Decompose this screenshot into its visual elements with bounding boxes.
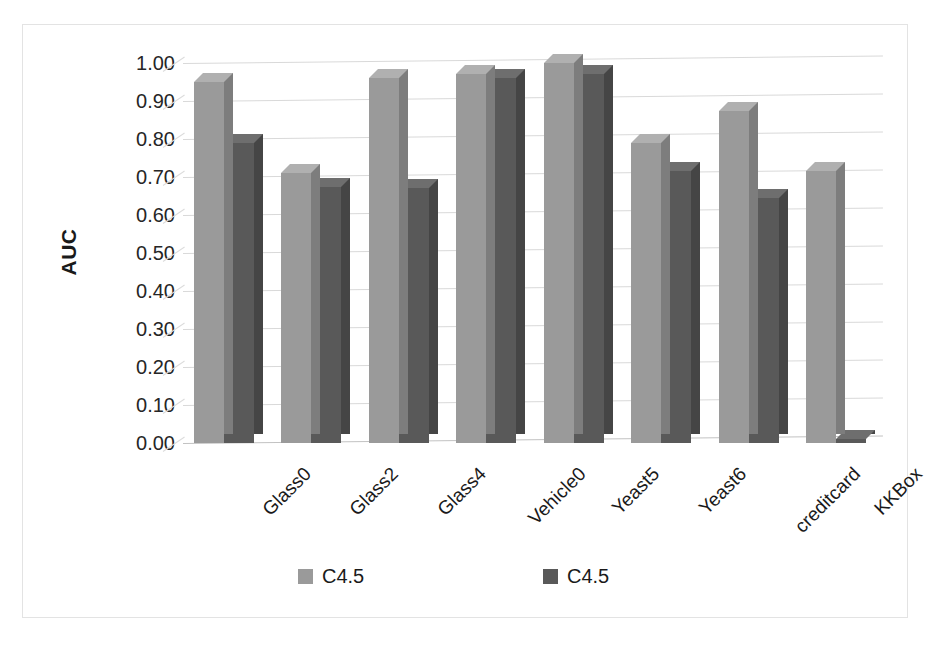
bar-side-face — [254, 134, 263, 434]
bar-top-face — [719, 102, 759, 112]
bar-side-face — [399, 69, 408, 434]
bars-layer — [183, 63, 883, 443]
bar-side-face — [749, 102, 758, 435]
x-axis-tick: KKBox — [870, 463, 927, 520]
bar-front-face — [806, 171, 836, 443]
bar-group — [369, 63, 438, 443]
x-axis-tick: Yeast5 — [608, 463, 664, 519]
wall-tick — [163, 361, 185, 376]
bar-side-face — [574, 54, 583, 434]
bar-group — [806, 63, 875, 443]
bar-side-face — [429, 179, 438, 434]
y-axis-title: AUC — [57, 192, 81, 312]
legend-item[interactable]: C4.5 — [298, 565, 364, 588]
bar-top-face — [631, 134, 671, 144]
chart-frame: AUC 1.000.900.800.700.600.500.400.300.20… — [22, 24, 908, 618]
wall-tick — [163, 95, 185, 110]
bar-side-face — [604, 65, 613, 434]
bar-group — [719, 63, 788, 443]
bar-group — [194, 63, 263, 443]
x-axis-tick-labels: Glass0Glass2Glass4Vehicle0Yeast5Yeast6cr… — [183, 449, 883, 559]
bar-side-face — [779, 189, 788, 434]
wall-tick — [163, 133, 185, 148]
bar-front-face — [194, 82, 224, 443]
bar-side-face — [341, 178, 350, 435]
bar-top-face — [369, 69, 409, 79]
bar-front-face — [719, 111, 749, 444]
bar-side-face — [224, 73, 233, 434]
legend-label: C4.5 — [567, 565, 609, 588]
bar-group — [631, 63, 700, 443]
bar — [281, 173, 311, 443]
bar — [194, 82, 224, 443]
bar — [719, 111, 749, 444]
x-axis-tick: Glass4 — [433, 463, 490, 520]
bar-group — [281, 63, 350, 443]
wall-tick — [163, 399, 185, 414]
bar — [631, 143, 661, 443]
bar-front-face — [631, 143, 661, 443]
bar-side-face — [661, 134, 670, 434]
wall-tick — [163, 323, 185, 338]
x-axis-tick: Vehicle0 — [524, 463, 590, 529]
bar-front-face — [544, 63, 574, 443]
bar-top-face — [281, 164, 321, 174]
x-axis-tick: Glass0 — [258, 463, 315, 520]
x-axis-tick: creditcard — [790, 463, 865, 538]
bar — [369, 78, 399, 443]
bar — [806, 171, 836, 443]
bar-side-face — [486, 65, 495, 434]
bar-top-face — [544, 54, 584, 64]
bar-group — [544, 63, 613, 443]
legend-label: C4.5 — [322, 565, 364, 588]
bar-side-face — [516, 69, 525, 434]
plot-area: AUC 1.000.900.800.700.600.500.400.300.20… — [23, 25, 909, 619]
bar-front-face — [369, 78, 399, 443]
bar — [544, 63, 574, 443]
bar-group — [456, 63, 525, 443]
bar-top-face — [456, 65, 496, 75]
bar-front-face — [281, 173, 311, 443]
wall-tick — [163, 209, 185, 224]
wall-tick — [163, 285, 185, 300]
legend-item[interactable]: C4.5 — [543, 565, 609, 588]
bar-side-face — [311, 164, 320, 434]
x-axis-tick: Glass2 — [346, 463, 403, 520]
bar-top-face — [806, 162, 846, 172]
wall-tick — [163, 171, 185, 186]
bar-side-face — [691, 162, 700, 434]
legend-swatch-icon — [543, 569, 558, 584]
chart-legend: C4.5C4.5 — [23, 565, 909, 605]
bar-top-face — [194, 73, 234, 83]
x-axis-tick: Yeast6 — [695, 463, 751, 519]
legend-swatch-icon — [298, 569, 313, 584]
bar-front-face — [456, 74, 486, 443]
bar — [456, 74, 486, 443]
wall-tick — [163, 247, 185, 262]
bar — [836, 439, 866, 443]
bar-side-face — [836, 162, 845, 434]
